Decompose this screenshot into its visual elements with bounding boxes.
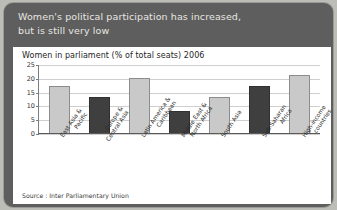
y-tick-label-25: 25 [27,61,35,69]
chart-title: Women in parliament (% of total seats) 2… [22,51,204,60]
chart-card: Women in parliament (% of total seats) 2… [13,47,331,204]
y-tick-label-0: 0 [31,130,35,138]
panel-headline-line-1: Women's political participation has incr… [18,10,318,24]
page-background: Women's political participation has incr… [0,0,337,210]
figure-panel: Women's political participation has incr… [4,3,333,207]
y-tick-label-15: 15 [27,89,35,97]
y-tick-label-5: 5 [31,116,35,124]
source-note: Source : Inter Parliamentary Union [22,192,129,199]
panel-headline: Women's political participation has incr… [18,10,318,37]
y-tick-label-10: 10 [27,102,35,110]
panel-headline-line-2: but is still very low [18,24,318,38]
x-axis-category-labels: East Asia &PacificEurope &Central AsiaLa… [39,135,321,183]
y-tick-label-20: 20 [27,75,35,83]
